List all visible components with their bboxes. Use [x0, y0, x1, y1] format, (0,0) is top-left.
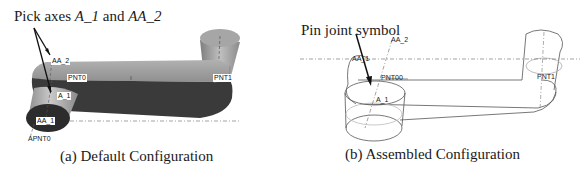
label-pnt1: PNT1: [537, 73, 555, 81]
callout-pick-axes: Pick axes A_1 and AA_2: [14, 8, 162, 25]
panel-default-configuration: Pick axes A_1 and AA_2 AA_2 PNT0 PNT1 A_…: [0, 0, 290, 173]
label-a1: A_1: [57, 92, 71, 100]
panel-assembled-configuration: Pin joint symbol AA_2 AA_1 PNT00 PNT1 A_…: [290, 0, 581, 173]
callout-pin-joint-symbol: Pin joint symbol: [301, 22, 400, 39]
axis-name-aa2: AA_2: [128, 8, 161, 24]
axis-name-a1: A_1: [75, 8, 99, 24]
caption-assembled-configuration: (b) Assembled Configuration: [345, 146, 520, 163]
label-pnt1: PNT1: [213, 74, 233, 82]
label-aa2: AA_2: [51, 57, 70, 65]
label-aa1: AA_1: [352, 55, 369, 63]
label-a1: A_1: [376, 96, 388, 104]
label-aa1: AA_1: [36, 117, 55, 125]
label-pnt00: PNT00: [381, 74, 403, 82]
label-pnt0: PNT0: [67, 74, 87, 82]
caption-default-configuration: (a) Default Configuration: [60, 148, 213, 165]
label-apnt0: APNT0: [28, 135, 51, 143]
label-aa2: AA_2: [391, 36, 408, 44]
